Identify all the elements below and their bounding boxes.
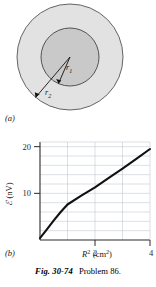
y-axis-symbol: ℰ bbox=[4, 200, 14, 206]
concentric-circles-diagram bbox=[8, 2, 148, 120]
emf-vs-r2-plot: 10 20 2 4 ℰ(nV) bbox=[0, 132, 156, 262]
panel-a-diagram: r1 r2 (a) bbox=[0, 0, 156, 132]
radius-r2-label: r2 bbox=[45, 88, 51, 99]
x-axis-title-group: R2(cm2) bbox=[0, 244, 156, 262]
y-tick-label-20: 20 bbox=[23, 142, 32, 152]
figure-caption: Fig. 30-74Problem 86. bbox=[0, 266, 156, 276]
y-tick-label-10: 10 bbox=[23, 188, 32, 198]
x-axis-units-close: ) bbox=[109, 249, 112, 259]
figure-container: r1 r2 (a) bbox=[0, 0, 156, 287]
x-axis-symbol-exponent: 2 bbox=[87, 249, 90, 255]
caption-problem-text: Problem 86. bbox=[73, 266, 121, 276]
panel-a-label: (a) bbox=[5, 113, 15, 123]
y-axis-units: (nV) bbox=[4, 182, 14, 198]
panel-b-chart: 10 20 2 4 ℰ(nV) R2(cm2) bbox=[0, 132, 156, 262]
x-axis-units-open: (cm bbox=[93, 249, 107, 259]
caption-figure-number: Fig. 30-74 bbox=[35, 266, 73, 276]
panel-b-label: (b) bbox=[5, 248, 15, 258]
y-axis-title: ℰ(nV) bbox=[4, 182, 14, 205]
radius-r1-label: r1 bbox=[66, 63, 72, 74]
x-axis-title: R2(cm2) bbox=[81, 249, 112, 259]
